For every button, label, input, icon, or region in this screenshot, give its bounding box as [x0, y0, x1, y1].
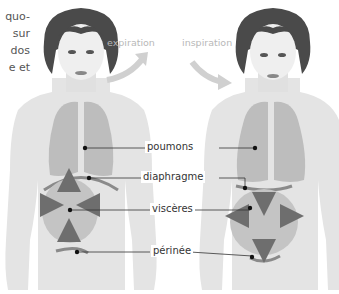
inspiration-label: inspiration [182, 37, 232, 48]
expiration-label: expiration [107, 37, 155, 48]
label-diaphragm: diaphragme [141, 171, 205, 183]
figure-inspiration [199, 8, 339, 290]
body-silhouette [199, 78, 339, 290]
label-viscera: viscères [150, 203, 195, 215]
label-lungs: poumons [145, 141, 195, 153]
figure-expiration [5, 8, 156, 290]
label-perineum: périnée [151, 245, 193, 257]
inspiration-arrow-icon [192, 62, 222, 82]
